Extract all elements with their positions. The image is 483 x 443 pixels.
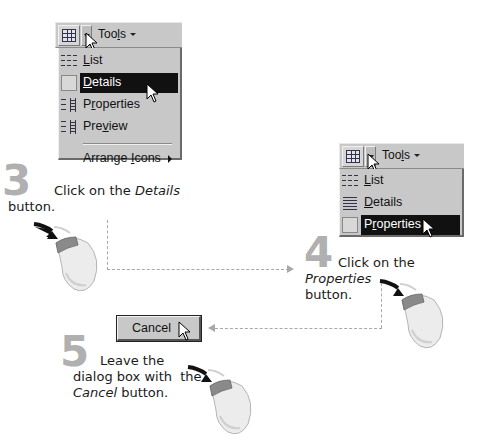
preview-view-icon <box>61 119 77 135</box>
tools-menu[interactable]: ToolsTools <box>382 148 420 162</box>
menu-item-list[interactable]: List <box>59 50 180 72</box>
menu-item-properties[interactable]: Properties <box>59 94 180 116</box>
connector-arrow-icon <box>208 324 215 332</box>
grid-view-icon <box>62 29 76 42</box>
views-button[interactable] <box>58 25 80 46</box>
connector-line <box>215 328 382 329</box>
list-view-icon <box>342 173 358 189</box>
menu-separator <box>83 143 172 145</box>
details-view-icon <box>342 195 358 211</box>
menu-item-arrange-icons[interactable]: Arrange Icons <box>59 148 180 170</box>
chevron-down-icon <box>414 154 420 157</box>
details-view-icon <box>61 75 77 91</box>
list-view-icon <box>61 53 77 69</box>
toolbar-step-3: ToolsTools <box>55 22 182 48</box>
toolbar-step-4: ToolsTools <box>339 143 464 169</box>
menu-item-details[interactable]: Details <box>59 72 180 94</box>
views-menu-step-4: List Details Properties <box>339 169 464 237</box>
chevron-down-icon <box>130 33 136 36</box>
mouse-pointer-icon <box>422 218 436 240</box>
connector-arrow-icon <box>287 265 294 273</box>
connector-line <box>107 269 289 270</box>
mouse-pointer-icon <box>178 321 192 343</box>
mouse-illustration <box>378 272 453 352</box>
menu-item-properties[interactable]: Properties <box>340 214 462 236</box>
properties-view-icon <box>61 97 77 113</box>
views-menu-step-3: List Details Properties Preview Arrange … <box>58 48 182 160</box>
properties-view-icon <box>342 217 358 233</box>
mouse-pointer-icon <box>146 83 160 105</box>
views-button[interactable] <box>342 146 364 167</box>
tools-menu[interactable]: ToolsTools <box>98 27 136 41</box>
submenu-arrow-icon <box>168 155 172 163</box>
mouse-illustration <box>32 215 107 295</box>
connector-line <box>107 220 108 270</box>
grid-view-icon <box>346 150 360 163</box>
menu-item-preview[interactable]: Preview <box>59 116 180 138</box>
connector-line <box>381 283 382 328</box>
menu-item-details[interactable]: Details <box>340 192 462 214</box>
mouse-illustration <box>186 358 261 438</box>
menu-item-list[interactable]: List <box>340 170 462 192</box>
step-3-instruction: Click on the Details button. <box>8 183 208 215</box>
